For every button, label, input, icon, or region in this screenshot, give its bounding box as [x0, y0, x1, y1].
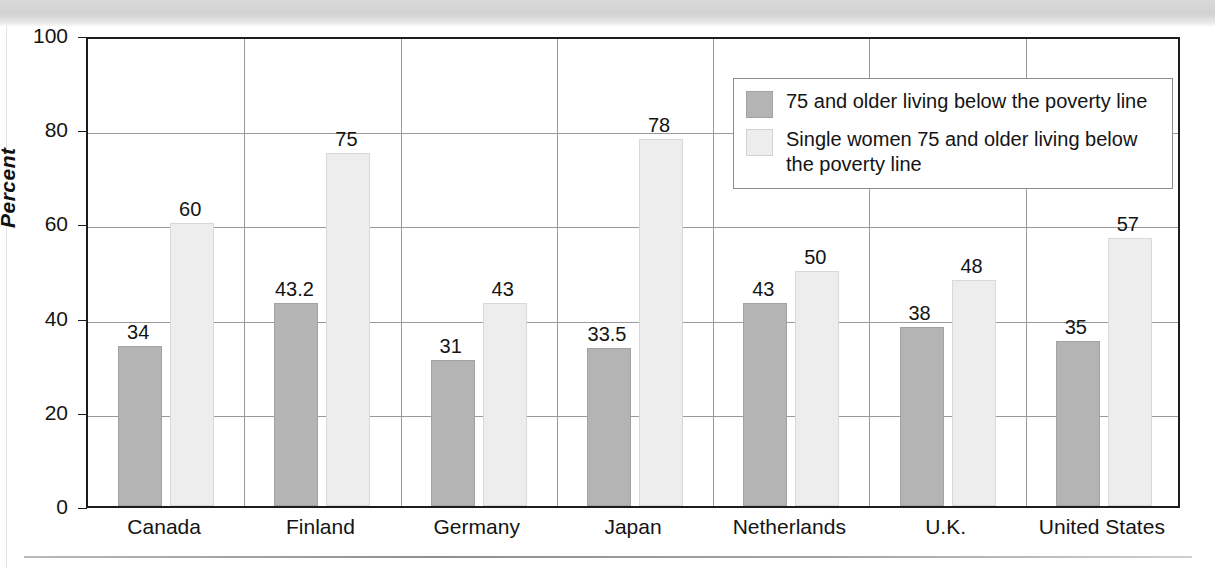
bar: [483, 303, 527, 506]
y-axis-tick-label: 60: [8, 212, 68, 236]
x-axis-tick-label: Canada: [127, 515, 201, 539]
bar-value-label: 43: [492, 278, 514, 301]
gridline-vertical: [713, 39, 714, 506]
legend-swatch-icon: [746, 91, 773, 118]
bar: [1056, 341, 1100, 506]
legend-item: 75 and older living below the poverty li…: [746, 89, 1160, 118]
gridline-vertical: [401, 39, 402, 506]
bar-value-label: 57: [1117, 213, 1139, 236]
y-axis-tick-label: 20: [8, 401, 68, 425]
bar: [587, 348, 631, 506]
x-axis-tick-label: Netherlands: [733, 515, 846, 539]
bar: [431, 360, 475, 506]
gridline-horizontal: [88, 416, 1178, 417]
y-axis-tick-label: 100: [8, 24, 68, 48]
bar: [743, 303, 787, 506]
bar-chart: Percent 020406080100 346043.275314333.57…: [0, 0, 1215, 568]
bar: [118, 346, 162, 506]
bar-value-label: 35: [1065, 316, 1087, 339]
bar-value-label: 43.2: [275, 278, 314, 301]
bar-value-label: 43: [752, 278, 774, 301]
y-axis-tick-mark: [78, 508, 87, 509]
bar: [639, 139, 683, 506]
bar-value-label: 34: [127, 321, 149, 344]
gridline-vertical: [244, 39, 245, 506]
bar-value-label: 78: [648, 114, 670, 137]
y-axis-tick-label: 40: [8, 307, 68, 331]
bar-value-label: 60: [179, 198, 201, 221]
chart-legend: 75 and older living below the poverty li…: [733, 78, 1173, 189]
legend-label: Single women 75 and older living below t…: [786, 127, 1160, 177]
bar: [274, 303, 318, 506]
y-axis-tick-label: 0: [8, 495, 68, 519]
bar: [1108, 238, 1152, 506]
bar-value-label: 31: [440, 335, 462, 358]
bar: [326, 153, 370, 506]
x-axis-tick-label: Finland: [286, 515, 355, 539]
x-axis-tick-label: U.K.: [925, 515, 966, 539]
gridline-horizontal: [88, 227, 1178, 228]
bar-value-label: 38: [908, 302, 930, 325]
bar: [900, 327, 944, 506]
bar: [952, 280, 996, 506]
gridline-vertical: [557, 39, 558, 506]
y-axis-tick-label: 80: [8, 118, 68, 142]
bar: [170, 223, 214, 506]
x-axis-tick-label: United States: [1039, 515, 1165, 539]
bar-value-label: 48: [960, 255, 982, 278]
bar-value-label: 33.5: [588, 323, 627, 346]
bar-value-label: 75: [335, 128, 357, 151]
legend-swatch-icon: [746, 129, 773, 156]
x-axis-tick-label: Japan: [604, 515, 661, 539]
bar-value-label: 50: [804, 246, 826, 269]
x-axis-tick-label: Germany: [434, 515, 520, 539]
bar: [795, 271, 839, 507]
legend-label: 75 and older living below the poverty li…: [786, 89, 1147, 114]
gridline-horizontal: [88, 322, 1178, 323]
legend-item: Single women 75 and older living below t…: [746, 127, 1160, 177]
